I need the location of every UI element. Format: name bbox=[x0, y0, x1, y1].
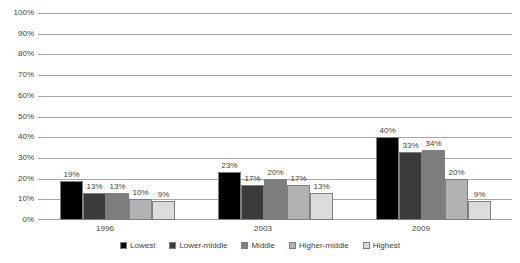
bar-fill bbox=[152, 201, 175, 220]
y-tick-60: 60% bbox=[0, 92, 34, 100]
legend-item-higher-middle[interactable]: Higher-middle bbox=[289, 241, 349, 250]
x-tick-2003: 2003 bbox=[233, 224, 293, 233]
y-tick-0: 0% bbox=[0, 216, 34, 224]
legend-label: Highest bbox=[373, 241, 400, 250]
bar-fill bbox=[83, 193, 106, 220]
bar-group-2003: 23% 17% 20% 17% 13% bbox=[218, 13, 333, 220]
legend-label: Lowest bbox=[130, 241, 155, 250]
bar-1996-higher-middle[interactable]: 10% bbox=[129, 13, 152, 220]
bar-fill bbox=[422, 150, 445, 220]
x-tick-2009: 2009 bbox=[391, 224, 451, 233]
bar-fill bbox=[129, 199, 152, 220]
bar-1996-highest[interactable]: 9% bbox=[152, 13, 175, 220]
plot-area: 19% 13% 13% 10% 9% 23% bbox=[38, 13, 512, 220]
bar-fill bbox=[468, 201, 491, 220]
legend-item-lowest[interactable]: Lowest bbox=[120, 241, 155, 250]
legend-label: Middle bbox=[251, 241, 275, 250]
legend-swatch-icon bbox=[120, 242, 127, 249]
bar-value-label: 9% bbox=[462, 191, 497, 199]
bar-group-1996: 19% 13% 13% 10% 9% bbox=[60, 13, 175, 220]
y-tick-100: 100% bbox=[0, 9, 34, 17]
bar-2009-higher-middle[interactable]: 20% bbox=[445, 13, 468, 220]
legend-label: Lower-middle bbox=[179, 241, 227, 250]
bar-fill bbox=[264, 179, 287, 220]
y-tick-50: 50% bbox=[0, 113, 34, 121]
y-tick-90: 90% bbox=[0, 30, 34, 38]
legend-item-highest[interactable]: Highest bbox=[363, 241, 400, 250]
bar-2003-lowest[interactable]: 23% bbox=[218, 13, 241, 220]
bar-fill bbox=[399, 152, 422, 220]
bar-chart: 100% 90% 80% 70% 60% 50% 40% 30% 20% 10%… bbox=[0, 0, 520, 263]
bar-2009-highest[interactable]: 9% bbox=[468, 13, 491, 220]
bar-value-label: 9% bbox=[146, 191, 181, 199]
bar-2003-middle[interactable]: 20% bbox=[264, 13, 287, 220]
bar-2003-lower-middle[interactable]: 17% bbox=[241, 13, 264, 220]
y-tick-80: 80% bbox=[0, 50, 34, 58]
legend-item-lower-middle[interactable]: Lower-middle bbox=[169, 241, 227, 250]
y-tick-70: 70% bbox=[0, 71, 34, 79]
y-axis: 100% 90% 80% 70% 60% 50% 40% 30% 20% 10%… bbox=[0, 13, 34, 220]
y-tick-30: 30% bbox=[0, 154, 34, 162]
bar-2009-lowest[interactable]: 40% bbox=[376, 13, 399, 220]
y-tick-10: 10% bbox=[0, 195, 34, 203]
bar-2009-lower-middle[interactable]: 33% bbox=[399, 13, 422, 220]
bar-value-label: 13% bbox=[304, 183, 339, 191]
legend-swatch-icon bbox=[241, 242, 248, 249]
bar-fill bbox=[310, 193, 333, 220]
legend-item-middle[interactable]: Middle bbox=[241, 241, 275, 250]
legend-swatch-icon bbox=[169, 242, 176, 249]
bar-fill bbox=[241, 185, 264, 220]
legend-label: Higher-middle bbox=[299, 241, 349, 250]
x-tick-1996: 1996 bbox=[75, 224, 135, 233]
y-tick-40: 40% bbox=[0, 133, 34, 141]
legend-swatch-icon bbox=[289, 242, 296, 249]
y-tick-20: 20% bbox=[0, 175, 34, 183]
bar-group-2009: 40% 33% 34% 20% 9% bbox=[376, 13, 491, 220]
legend-swatch-icon bbox=[363, 242, 370, 249]
bar-2009-middle[interactable]: 34% bbox=[422, 13, 445, 220]
legend: Lowest Lower-middle Middle Higher-middle… bbox=[0, 241, 520, 250]
bar-2003-highest[interactable]: 13% bbox=[310, 13, 333, 220]
